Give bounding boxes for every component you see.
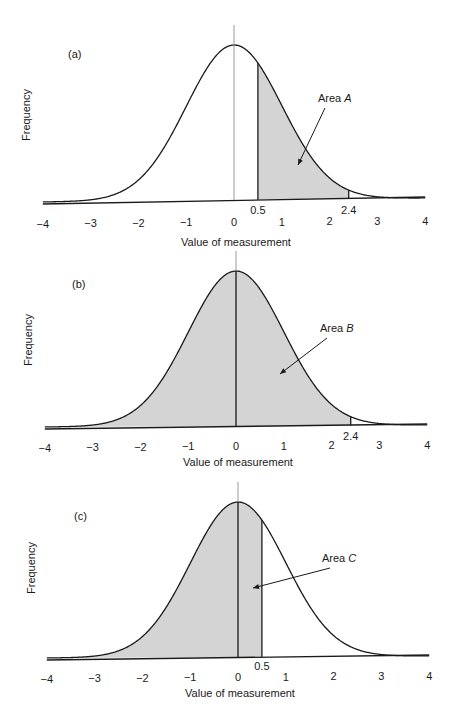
annotation-arrow: [253, 568, 330, 588]
x-axis-label: Value of measurement: [181, 236, 291, 248]
shaded-area: [47, 502, 262, 658]
x-tick-label: −2: [132, 217, 145, 229]
x-tick-label: −4: [37, 218, 50, 230]
x-tick-label: −3: [84, 217, 97, 229]
area-annotation: Area C: [322, 552, 356, 564]
x-tick-label: −4: [41, 673, 54, 685]
x-tick-label: 2: [331, 670, 337, 682]
y-axis-label: Frequency: [22, 314, 34, 366]
x-tick-label: −1: [184, 671, 197, 683]
x-tick-label: 3: [378, 670, 384, 682]
area-annotation: Area B: [320, 322, 354, 334]
x-tick-label: 2: [329, 439, 335, 451]
x-tick-label: 2: [327, 215, 333, 227]
x-tick-label: 0: [235, 671, 241, 683]
area-annotation: Area A: [318, 92, 352, 104]
x-tick-label: 0: [233, 440, 239, 452]
x-tick-label: 1: [281, 440, 287, 452]
x-tick-label: −1: [182, 440, 195, 452]
x-tick-label: 3: [374, 215, 380, 227]
marker-label: 0.5: [254, 660, 269, 672]
panel-label: (b): [72, 278, 85, 290]
x-tick-label: −4: [39, 442, 52, 454]
y-axis-label: Frequency: [25, 542, 37, 594]
x-tick-label: −3: [86, 441, 99, 453]
marker-label: 0.5: [250, 204, 265, 216]
x-axis-label: Value of measurement: [183, 456, 293, 468]
marker-label: 2.4: [343, 430, 358, 442]
y-axis-label: Frequency: [20, 89, 32, 141]
x-tick-label: 3: [376, 439, 382, 451]
x-tick-label: 4: [424, 439, 430, 451]
marker-label: 2.4: [341, 204, 356, 216]
panel-label: (c): [74, 510, 87, 522]
x-tick-label: −3: [88, 672, 101, 684]
panel-label: (a): [68, 48, 81, 60]
x-tick-label: −1: [180, 216, 193, 228]
shaded-area: [45, 271, 351, 427]
x-tick-label: −2: [136, 672, 149, 684]
x-tick-label: 1: [279, 216, 285, 228]
x-tick-label: 1: [283, 671, 289, 683]
panel-a: 0.52.4−4−3−2−101234Value of measurementF…: [20, 25, 428, 248]
shaded-area: [258, 63, 349, 200]
x-tick-label: −2: [134, 441, 147, 453]
x-tick-label: 4: [426, 670, 432, 682]
x-tick-label: 4: [422, 215, 428, 227]
x-axis-label: Value of measurement: [185, 687, 295, 699]
figure: 0.52.4−4−3−2−101234Value of measurementF…: [0, 0, 455, 718]
panel-b: 2.4−4−3−2−101234Value of measurementFreq…: [22, 251, 430, 468]
x-tick-label: 0: [231, 216, 237, 228]
panel-c: 0.5−4−3−2−101234Value of measurementFreq…: [25, 482, 432, 699]
